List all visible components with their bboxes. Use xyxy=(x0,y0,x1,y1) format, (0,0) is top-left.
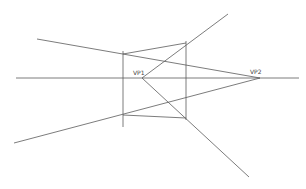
vp2-label: VP2 xyxy=(250,68,262,75)
vp1-upper-line xyxy=(142,14,228,78)
vp1-lower-line xyxy=(142,78,249,177)
vp2-lower-line xyxy=(14,78,260,143)
bottom-edge xyxy=(123,115,186,118)
vp1-label: VP1 xyxy=(133,69,145,76)
vp2-upper-line xyxy=(37,39,260,78)
perspective-diagram: VP1 VP2 xyxy=(0,0,306,189)
